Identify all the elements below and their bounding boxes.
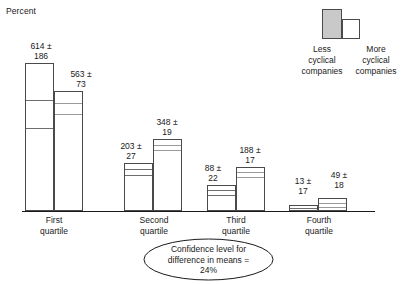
legend-label-less-line-1: Less <box>296 44 348 55</box>
bar-value-line-1: 188 ± <box>217 145 283 155</box>
legend-label-more-cyclical: More cyclical companies <box>350 44 402 77</box>
bar-value-third-more: 188 ± 17 <box>217 145 283 165</box>
bar-value-line-1: 348 ± <box>133 117 201 127</box>
legend-swatch-less-cyclical <box>322 9 342 39</box>
bar-value-fourth-more: 49 ± 18 <box>308 170 370 190</box>
callout-line-2: difference in means = <box>143 255 274 266</box>
bar-first-more <box>54 91 83 211</box>
category-label-line-1: Third <box>206 215 266 226</box>
legend-label-less-line-3: companies <box>296 66 348 77</box>
legend-label-more-line-1: More <box>350 44 402 55</box>
category-label-first-quartile: First quartile <box>24 215 84 236</box>
bar-value-line-2: 19 <box>133 127 201 137</box>
bar-segment-line <box>237 172 264 173</box>
bar-segment-line <box>237 177 264 178</box>
bar-segment-line <box>26 128 53 129</box>
bar-segment-line <box>154 145 181 146</box>
bar-segment-line <box>26 100 53 101</box>
bar-segment-line <box>55 114 82 115</box>
bar-third-less <box>207 185 236 211</box>
bar-segment-line <box>154 150 181 151</box>
bar-segment-line <box>290 208 317 209</box>
x-axis-baseline <box>22 211 375 212</box>
bar-segment-line <box>208 190 235 191</box>
bar-value-second-more: 348 ± 19 <box>133 117 201 137</box>
category-label-fourth-quartile: Fourth quartile <box>288 215 350 236</box>
confidence-callout: Confidence level for difference in means… <box>143 238 274 281</box>
legend-swatch-more-cyclical <box>342 19 360 39</box>
bar-third-more <box>236 167 265 211</box>
bar-fourth-less <box>289 205 318 211</box>
legend-label-more-line-3: companies <box>350 66 402 77</box>
bar-segment-line <box>125 175 152 176</box>
category-label-line-1: First <box>24 215 84 226</box>
category-label-third-quartile: Third quartile <box>206 215 266 236</box>
bar-value-first-less: 614 ± 186 <box>6 41 76 61</box>
bar-value-line-2: 17 <box>217 155 283 165</box>
bar-value-line-1: 49 ± <box>308 170 370 180</box>
bar-value-line-1: 563 ± <box>46 69 116 79</box>
category-label-line-1: Second <box>123 215 185 226</box>
callout-line-3: 24% <box>143 265 274 276</box>
bar-chart: Percent Less cyclical companies More cyc… <box>0 0 410 284</box>
category-label-line-2: quartile <box>24 226 84 237</box>
bar-segment-line <box>208 195 235 196</box>
bar-segment-line <box>55 103 82 104</box>
bar-value-line-2: 186 <box>6 51 76 61</box>
bar-value-line-2: 73 <box>46 79 116 89</box>
bar-fourth-more <box>318 198 347 211</box>
bar-segment-line <box>125 169 152 170</box>
category-label-line-1: Fourth <box>288 215 350 226</box>
bar-value-line-2: 18 <box>308 180 370 190</box>
bar-second-more <box>153 139 182 211</box>
category-label-line-2: quartile <box>206 226 266 237</box>
bar-segment-line <box>319 207 346 208</box>
legend-label-more-line-2: cyclical <box>350 55 402 66</box>
category-label-line-2: quartile <box>288 226 350 237</box>
category-label-second-quartile: Second quartile <box>123 215 185 236</box>
bar-value-first-more: 563 ± 73 <box>46 69 116 89</box>
bar-value-line-1: 614 ± <box>6 41 76 51</box>
legend-label-less-cyclical: Less cyclical companies <box>296 44 348 77</box>
bar-second-less <box>124 163 153 211</box>
bar-segment-line <box>319 203 346 204</box>
callout-line-1: Confidence level for <box>143 244 274 255</box>
category-label-line-2: quartile <box>123 226 185 237</box>
legend-label-less-line-2: cyclical <box>296 55 348 66</box>
